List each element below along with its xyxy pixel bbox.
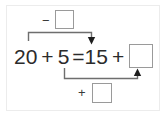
equation-line: 20 + 5 = 15 + <box>14 44 128 70</box>
top-bracket <box>29 33 92 42</box>
bottom-answer-box[interactable] <box>92 83 112 103</box>
up-arrow-icon <box>134 69 141 77</box>
top-answer-box[interactable] <box>55 10 74 29</box>
worksheet-problem: − 20 + 5 = 15 + + <box>0 0 167 118</box>
left-operator: + <box>37 45 57 69</box>
left-addend: 5 <box>58 45 70 69</box>
right-operator: + <box>108 45 128 69</box>
bottom-plus-sign: + <box>78 86 86 99</box>
top-minus-sign: − <box>42 14 50 27</box>
right-answer-box[interactable] <box>129 44 153 68</box>
left-term: 20 <box>14 45 37 69</box>
equals-sign: = <box>69 45 84 69</box>
right-term: 15 <box>85 45 108 69</box>
